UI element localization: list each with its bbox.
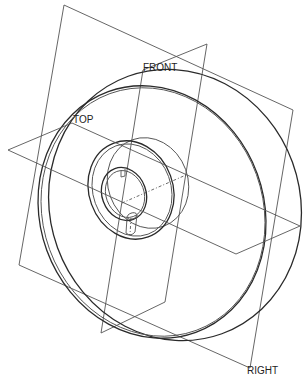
disc-outer-front-edge-inner bbox=[7, 56, 300, 368]
right-plane-label: RIGHT bbox=[247, 365, 278, 376]
front-plane-label: FRONT bbox=[143, 62, 177, 73]
right-datum-plane[interactable] bbox=[19, 5, 293, 368]
disc-outer-back-edge bbox=[11, 34, 307, 377]
front-datum-plane[interactable] bbox=[101, 44, 207, 333]
top-plane-label: TOP bbox=[73, 114, 94, 125]
hub-back-edge bbox=[95, 126, 202, 240]
axis-centerline bbox=[122, 175, 186, 203]
cad-drawing: FRONT TOP RIGHT bbox=[0, 0, 307, 382]
set-screw-hole-top bbox=[126, 211, 137, 220]
